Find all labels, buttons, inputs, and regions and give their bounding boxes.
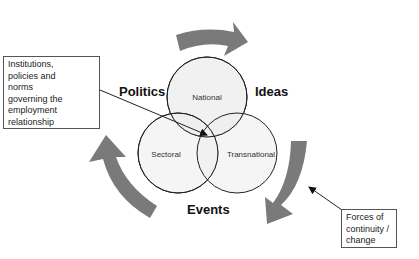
force-label-ideas: Ideas bbox=[255, 84, 288, 99]
cycle-arrow-top bbox=[176, 22, 248, 56]
note-forces: Forces of continuity / change bbox=[341, 209, 397, 248]
note-line: Institutions, bbox=[8, 59, 95, 71]
note-line: employment bbox=[8, 105, 95, 117]
note-line: continuity / bbox=[346, 224, 392, 236]
note-line: norms bbox=[8, 82, 95, 94]
force-label-events: Events bbox=[187, 202, 230, 217]
force-label-politics: Politics bbox=[119, 84, 165, 99]
note-line: Forces of bbox=[346, 212, 392, 224]
note-institutions: Institutions, policies and norms governi… bbox=[3, 56, 100, 129]
circle-label-sectoral: Sectoral bbox=[151, 150, 180, 159]
circle-label-transnational: Transnational bbox=[227, 150, 275, 159]
note-line: relationship bbox=[8, 117, 95, 129]
note-line: governing the bbox=[8, 94, 95, 106]
connector-forces bbox=[309, 187, 342, 210]
note-line: change bbox=[346, 235, 392, 247]
circle-label-national: National bbox=[192, 93, 221, 102]
note-line: policies and bbox=[8, 71, 95, 83]
venn-diagram bbox=[138, 57, 277, 193]
